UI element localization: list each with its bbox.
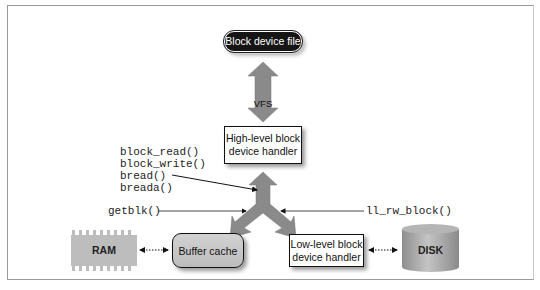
function-block-write: block_write() xyxy=(120,158,206,170)
getblk-label: getblk() xyxy=(108,205,161,217)
vfs-double-arrow xyxy=(248,62,278,122)
low-level-handler-line1: Low-level block xyxy=(291,238,363,251)
functions-pointer-line xyxy=(172,175,257,190)
buffer-cache-node: Buffer cache xyxy=(172,233,244,268)
function-block-read: block_read() xyxy=(120,146,199,158)
vfs-label: VFS xyxy=(252,98,274,109)
function-bread: bread() xyxy=(120,170,166,182)
block-device-file-label: Block device file xyxy=(225,32,301,51)
y-shaped-arrow xyxy=(230,172,296,238)
ll-rw-block-label: ll_rw_block() xyxy=(366,205,452,217)
high-level-handler-box: High-level block device handler xyxy=(224,126,302,164)
buffer-cache-label: Buffer cache xyxy=(179,245,238,257)
block-device-file-node: Block device file xyxy=(224,31,302,52)
high-level-handler-line2: device handler xyxy=(226,145,300,158)
low-level-handler-box: Low-level block device handler xyxy=(289,234,364,267)
high-level-handler-line1: High-level block xyxy=(226,132,300,145)
function-breada: breada() xyxy=(120,182,173,194)
ram-label: RAM xyxy=(71,244,137,256)
disk-label: DISK xyxy=(402,244,459,256)
low-level-handler-line2: device handler xyxy=(291,251,363,264)
